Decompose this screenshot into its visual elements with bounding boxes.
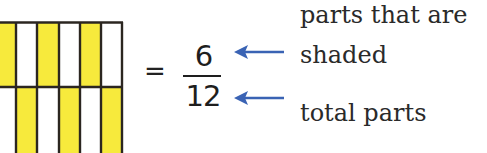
cell-unshaded [59,23,80,87]
cell-unshaded [37,87,59,153]
equals-sign: = [144,58,166,84]
fraction-numerator: 6 [189,42,219,71]
cell-shaded [80,23,101,87]
arrow-left-icon [234,44,286,60]
numerator-label-line2: shaded [300,43,387,67]
grid-row-bottom [0,87,122,153]
cell-shaded [37,23,59,87]
cell-unshaded [0,87,16,153]
fraction-bar [183,75,221,77]
grid-row-top [0,23,122,87]
fraction-denominator: 12 [183,82,223,111]
cell-unshaded [80,87,101,153]
cell-shaded [101,87,122,153]
cell-unshaded [16,23,37,87]
cell-shaded [59,87,80,153]
cell-shaded [0,23,16,87]
numerator-label-line1: parts that are [300,3,467,27]
cell-unshaded [101,23,122,87]
denominator-label: total parts [300,101,426,125]
cell-shaded [16,87,37,153]
arrow-left-icon [234,90,286,106]
